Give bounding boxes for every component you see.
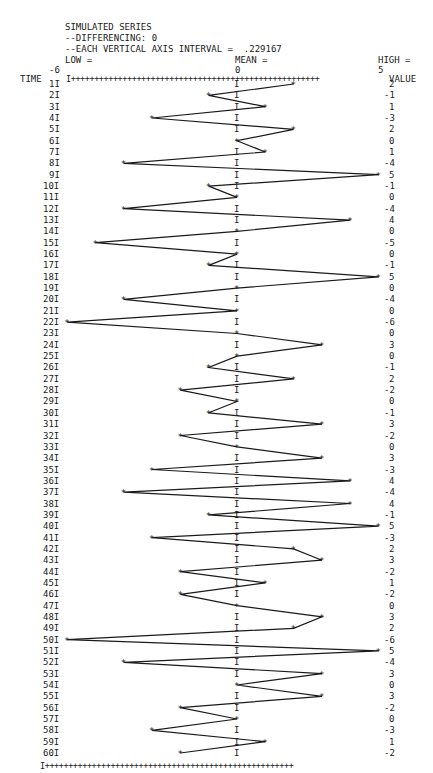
data-point-star: * xyxy=(64,636,69,646)
data-point-star: * xyxy=(376,273,381,283)
data-point-star: * xyxy=(206,363,211,373)
data-point-star: * xyxy=(319,420,324,430)
data-point-star: * xyxy=(93,239,98,249)
data-point-star: * xyxy=(177,432,182,442)
data-point-star: * xyxy=(234,602,239,612)
data-point-star: * xyxy=(149,114,154,124)
data-point-star: * xyxy=(177,590,182,600)
data-point-star: * xyxy=(262,738,267,748)
data-point-star: * xyxy=(262,103,267,113)
data-point-star: * xyxy=(234,284,239,294)
data-point-star: * xyxy=(121,159,126,169)
data-point-star: * xyxy=(234,137,239,147)
data-point-star: * xyxy=(149,726,154,736)
data-point-star: * xyxy=(149,534,154,544)
data-point-star: * xyxy=(177,749,182,759)
data-point-star: * xyxy=(347,477,352,487)
data-point-star: * xyxy=(234,227,239,237)
data-point-star: * xyxy=(234,443,239,453)
data-point-star: * xyxy=(234,307,239,317)
data-point-star: * xyxy=(319,613,324,623)
data-point-star: * xyxy=(262,148,267,158)
data-point-star: * xyxy=(121,658,126,668)
data-point-star: * xyxy=(319,670,324,680)
data-point-star: * xyxy=(234,715,239,725)
data-point-star: * xyxy=(291,125,296,135)
data-point-star: * xyxy=(291,545,296,555)
data-point-star: * xyxy=(149,466,154,476)
data-point-star: * xyxy=(234,397,239,407)
data-point-star: * xyxy=(206,182,211,192)
data-point-star: * xyxy=(234,193,239,203)
data-point-star: * xyxy=(262,579,267,589)
data-point-star: * xyxy=(376,522,381,532)
data-point-star: * xyxy=(121,488,126,498)
data-point-star: * xyxy=(347,500,352,510)
data-point-star: * xyxy=(234,329,239,339)
data-point-star: * xyxy=(206,511,211,521)
data-point-star: * xyxy=(319,341,324,351)
data-point-star: * xyxy=(121,205,126,215)
data-point-star: * xyxy=(291,80,296,90)
data-point-star: * xyxy=(177,386,182,396)
data-point-star: * xyxy=(234,352,239,362)
data-point-star: * xyxy=(319,692,324,702)
data-point-star: * xyxy=(319,556,324,566)
data-point-star: * xyxy=(64,318,69,328)
data-point-star: * xyxy=(177,704,182,714)
data-point-star: * xyxy=(291,375,296,385)
data-point-star: * xyxy=(376,171,381,181)
series-line xyxy=(67,84,378,753)
data-point-star: * xyxy=(177,568,182,578)
data-point-star: * xyxy=(291,624,296,634)
data-point-star: * xyxy=(376,647,381,657)
data-point-star: * xyxy=(234,250,239,260)
data-point-star: * xyxy=(121,295,126,305)
series-plot: ****************************************… xyxy=(0,0,433,773)
data-point-star: * xyxy=(206,91,211,101)
data-point-star: * xyxy=(319,454,324,464)
data-point-star: * xyxy=(234,681,239,691)
data-point-star: * xyxy=(206,409,211,419)
data-point-star: * xyxy=(206,261,211,271)
data-point-star: * xyxy=(347,216,352,226)
